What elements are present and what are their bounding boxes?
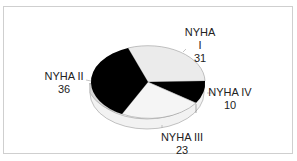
- label-nyha-iv: NYHA IV10: [208, 86, 252, 112]
- label-nyha-ii: NYHA II36: [44, 70, 84, 96]
- label-nyha-iii: NYHA III23: [160, 131, 204, 157]
- label-nyha-i: NYHA I31: [182, 26, 218, 65]
